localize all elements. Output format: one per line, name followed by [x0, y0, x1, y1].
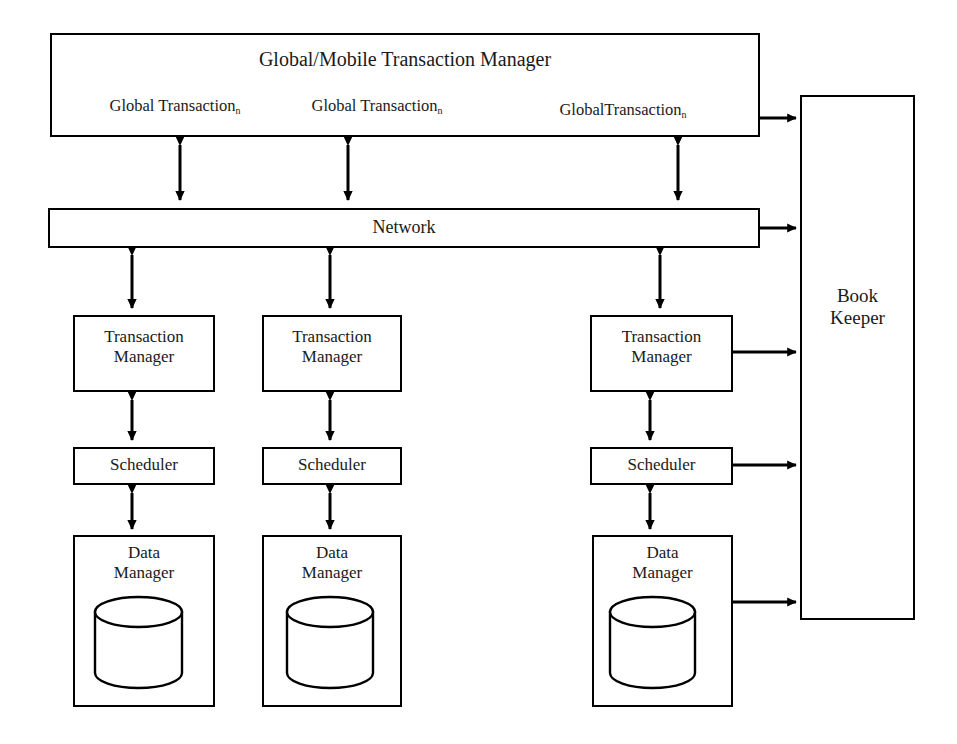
- data-manager-label-2: Data Manager: [262, 543, 402, 582]
- scheduler-label-2: Scheduler: [262, 455, 402, 475]
- global-transaction-2-name: Global Transaction: [311, 96, 437, 115]
- global-transaction-1-subscript: n: [236, 105, 241, 116]
- transaction-manager-label-3: Transaction Manager: [590, 327, 733, 366]
- global-transaction-3-label: GlobalTransactionn: [518, 100, 728, 119]
- transaction-manager-label-2: Transaction Manager: [262, 327, 402, 366]
- data-manager-label-3: Data Manager: [592, 543, 733, 582]
- global-transaction-1-label: Global Transactionn: [70, 96, 280, 115]
- book-keeper-label: Book Keeper: [800, 285, 915, 329]
- global-transaction-1-name: Global Transaction: [109, 96, 235, 115]
- scheduler-label-3: Scheduler: [590, 455, 733, 475]
- network-label: Network: [48, 217, 760, 238]
- global-transaction-3-subscript: n: [682, 109, 687, 120]
- transaction-manager-label-1: Transaction Manager: [73, 327, 215, 366]
- data-manager-label-1: Data Manager: [73, 543, 215, 582]
- global-transaction-2-label: Global Transactionn: [272, 96, 482, 115]
- book-keeper-box[interactable]: [800, 95, 915, 620]
- global-transaction-3-name: GlobalTransaction: [559, 100, 681, 119]
- global-transaction-2-subscript: n: [438, 105, 443, 116]
- diagram-canvas: Global/Mobile Transaction Manager Global…: [0, 0, 957, 744]
- scheduler-label-1: Scheduler: [73, 455, 215, 475]
- global-mobile-transaction-manager-title: Global/Mobile Transaction Manager: [50, 48, 760, 71]
